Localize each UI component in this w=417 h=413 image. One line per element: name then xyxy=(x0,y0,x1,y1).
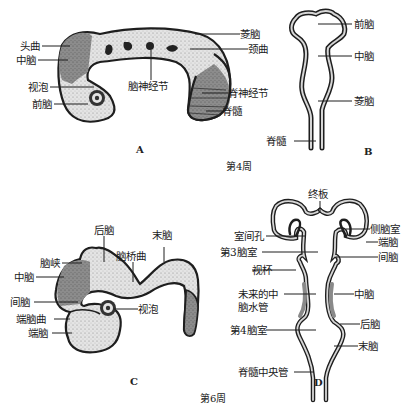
label-d-myelencephalon: 末脑 xyxy=(358,340,378,352)
label-interventricular-foramen: 室间孔 xyxy=(234,230,264,242)
label-pontine-flexure: 脑桥曲 xyxy=(116,250,146,262)
caption-week6: 第6周 xyxy=(200,390,226,405)
label-midbrain: 中脑 xyxy=(16,54,36,66)
label-cervical-flexure: 颈曲 xyxy=(248,43,268,55)
label-forebrain: 前脑 xyxy=(32,98,52,110)
label-mesencephalon: 中脑 xyxy=(14,271,34,283)
label-d-diencephalon: 间脑 xyxy=(378,251,398,263)
label-c-optic-vesicle: 视泡 xyxy=(138,303,158,315)
panel-b-neural-tube xyxy=(292,11,345,148)
panel-letter-a: A xyxy=(136,144,144,155)
panel-letter-b: B xyxy=(364,146,372,157)
label-optic-vesicle: 视泡 xyxy=(28,81,48,93)
panel-letter-c: C xyxy=(130,376,138,387)
label-hindbrain: 菱脑 xyxy=(240,28,260,40)
caption-week4: 第4周 xyxy=(226,158,252,173)
panel-a-brain xyxy=(58,28,230,121)
label-spinal-ganglia: 脊神经节 xyxy=(228,87,268,99)
label-d-telencephalon: 端脑 xyxy=(378,236,398,248)
label-b-forebrain: 前脑 xyxy=(354,18,374,30)
label-cranial-ganglia: 脑神经节 xyxy=(128,80,168,92)
label-cephalic-flexure: 头曲 xyxy=(20,40,40,52)
label-isthmus: 脑峡 xyxy=(40,257,60,269)
label-diencephalon: 间脑 xyxy=(10,296,30,308)
label-central-canal: 脊髓中央管 xyxy=(238,366,288,378)
label-telencephalon: 端脑 xyxy=(28,327,48,339)
label-d-metencephalon: 后脑 xyxy=(360,318,380,330)
label-spinal-cord: 脊髓 xyxy=(222,105,242,117)
label-telencephalic-flexure: 端脑曲 xyxy=(16,313,46,325)
label-optic-cup: 视杯 xyxy=(252,264,272,276)
label-myelencephalon: 末脑 xyxy=(152,229,172,241)
label-lateral-ventricle: 侧脑室 xyxy=(370,223,400,235)
label-future-aqueduct-2: 脑水管 xyxy=(238,301,268,313)
label-b-midbrain: 中脑 xyxy=(354,50,374,62)
label-future-aqueduct-1: 未来的中 xyxy=(238,288,278,300)
label-metencephalon: 后脑 xyxy=(94,224,114,236)
label-fourth-ventricle: 第4脑室 xyxy=(230,324,267,336)
label-b-spinal-cord: 脊髓 xyxy=(266,135,286,147)
label-third-ventricle: 第3脑室 xyxy=(220,246,257,258)
panel-letter-d: D xyxy=(314,377,323,388)
label-lamina-terminalis: 终板 xyxy=(308,188,328,200)
label-b-hindbrain: 菱脑 xyxy=(354,95,374,107)
label-d-mesencephalon: 中脑 xyxy=(354,288,374,300)
